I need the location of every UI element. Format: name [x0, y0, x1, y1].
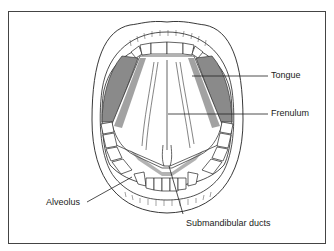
label-tongue: Tongue: [271, 71, 301, 80]
label-alveolus: Alveolus: [46, 198, 80, 207]
label-submandibular-ducts: Submandibular ducts: [186, 219, 271, 228]
label-frenulum: Frenulum: [271, 109, 309, 118]
mouth-diagram: [0, 0, 334, 251]
